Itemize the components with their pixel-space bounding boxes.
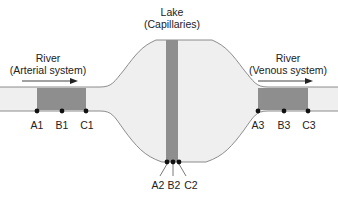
point-b2-label: B2 (168, 180, 181, 191)
circulation-diagram (0, 0, 338, 202)
point-a3-label: A3 (252, 120, 265, 131)
point-c2-dot (177, 160, 182, 165)
lake-subtitle: (Capillaries) (132, 18, 212, 30)
arterial-river-label: River (Arterial system) (2, 52, 94, 76)
point-a2-dot (165, 160, 170, 165)
arterial-flow-arrow-icon (22, 78, 78, 84)
point-c2-label: C2 (184, 180, 197, 191)
leader-a2 (160, 164, 167, 176)
point-b2-dot (171, 160, 176, 165)
point-b3-label: B3 (278, 120, 291, 131)
lake-label: Lake (Capillaries) (132, 6, 212, 30)
arterial-river-title: River (2, 52, 94, 64)
point-a1-dot (35, 109, 40, 114)
point-b3-dot (282, 109, 287, 114)
point-a3-dot (256, 109, 261, 114)
venous-river-title: River (242, 52, 334, 64)
point-a2-label: A2 (152, 180, 165, 191)
capillary-segment (166, 40, 178, 162)
point-c1-label: C1 (80, 120, 93, 131)
venous-segment (258, 88, 308, 110)
point-c3-dot (306, 109, 311, 114)
arterial-segment (37, 88, 86, 110)
venous-flow-arrow-icon (258, 78, 313, 84)
leader-c2 (179, 164, 186, 176)
point-c3-label: C3 (302, 120, 315, 131)
point-b1-label: B1 (56, 120, 69, 131)
lake-title: Lake (132, 6, 212, 18)
venous-river-subtitle: (Venous system) (242, 64, 334, 76)
arterial-river-subtitle: (Arterial system) (2, 64, 94, 76)
point-a1-label: A1 (31, 120, 44, 131)
point-c1-dot (84, 109, 89, 114)
point-b1-dot (60, 109, 65, 114)
venous-river-label: River (Venous system) (242, 52, 334, 76)
